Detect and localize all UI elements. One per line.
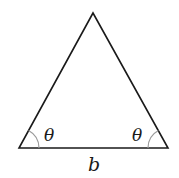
left-angle-arc: [29, 131, 39, 149]
triangle: [19, 13, 168, 148]
right-angle-arc: [148, 131, 158, 149]
triangle-diagram: θ θ b: [0, 0, 179, 178]
right-angle-label: θ: [132, 125, 142, 145]
base-label: b: [88, 153, 100, 175]
left-angle-label: θ: [44, 125, 54, 145]
